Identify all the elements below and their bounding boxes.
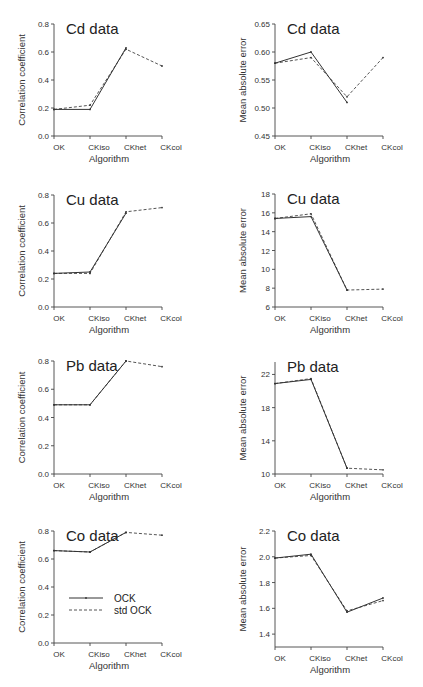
x-tick-label: CKcol — [381, 654, 403, 663]
legend-std-ock-label: std OCK — [114, 605, 152, 616]
y-tick-label: 0.8 — [38, 191, 50, 200]
figure-canvas: 0.00.20.40.60.8OKCKisoCKhetCKcolAlgorith… — [0, 0, 423, 687]
data-point — [53, 404, 55, 406]
data-point — [382, 288, 384, 290]
chart-panel-co-corr: 0.00.20.40.60.8OKCKisoCKhetCKcolAlgorith… — [16, 527, 182, 671]
data-point — [346, 467, 348, 469]
data-point — [125, 212, 127, 214]
chart-panel-pb-mae: 10141822OKCKisoCKhetCKcolAlgorithmMean a… — [237, 358, 403, 502]
data-point — [382, 600, 384, 602]
data-point — [382, 469, 384, 471]
panel-title: Cu data — [287, 190, 340, 207]
x-tick-label: CKhet — [345, 314, 368, 323]
data-point — [161, 65, 163, 67]
y-tick-label: 0.8 — [38, 20, 50, 29]
data-point — [310, 553, 312, 555]
y-tick-label: 6 — [266, 303, 271, 312]
data-point — [53, 273, 55, 275]
x-tick-label: CKhet — [124, 481, 147, 490]
y-axis-title: Mean absolute error — [237, 208, 248, 293]
x-tick-label: CKhet — [345, 481, 368, 490]
y-tick-label: 0.4 — [38, 247, 50, 256]
x-tick-label: CKcol — [160, 143, 182, 152]
data-point — [161, 207, 163, 209]
series-ock-line — [275, 217, 347, 290]
data-point — [125, 360, 127, 362]
series-std-ock-line — [275, 214, 383, 290]
x-tick-label: CKiso — [309, 654, 331, 663]
y-tick-label: 18 — [261, 404, 270, 413]
y-tick-label: 0.4 — [38, 583, 50, 592]
data-point — [346, 96, 348, 98]
data-point — [310, 379, 312, 381]
x-tick-label: CKiso — [309, 481, 331, 490]
y-tick-label: 0.55 — [254, 76, 270, 85]
x-axis-title: Algorithm — [310, 324, 350, 335]
y-tick-label: 0.0 — [38, 303, 50, 312]
data-point — [161, 366, 163, 368]
chart-panel-pb-corr: 0.00.20.40.60.8OKCKisoCKhetCKcolAlgorith… — [16, 357, 182, 502]
y-tick-label: 0.45 — [254, 132, 270, 141]
x-tick-label: CKhet — [345, 654, 368, 663]
data-point — [310, 57, 312, 59]
y-tick-label: 0.2 — [38, 611, 50, 620]
data-point — [346, 289, 348, 291]
x-tick-label: CKiso — [88, 481, 110, 490]
y-tick-label: 0.2 — [38, 442, 50, 451]
legend-ock-label: OCK — [114, 593, 136, 604]
x-tick-label: CKhet — [345, 143, 368, 152]
y-tick-label: 2.2 — [259, 527, 271, 536]
x-tick-label: CKiso — [309, 143, 331, 152]
y-axis-title: Mean absolute error — [237, 546, 248, 631]
y-tick-label: 0.8 — [38, 527, 50, 536]
y-tick-label: 18 — [261, 190, 270, 199]
series-ock-line — [275, 379, 347, 468]
y-tick-label: 14 — [261, 437, 270, 446]
x-tick-label: CKcol — [160, 650, 182, 659]
x-tick-label: OK — [274, 481, 286, 490]
x-tick-label: OK — [53, 481, 65, 490]
data-point — [346, 102, 348, 104]
series-std-ock-line — [54, 208, 162, 274]
data-point — [161, 534, 163, 536]
y-tick-label: 0.4 — [38, 414, 50, 423]
chart-panel-cu-mae: 681012141618OKCKisoCKhetCKcolAlgorithmMe… — [237, 190, 403, 335]
data-point — [310, 51, 312, 53]
data-point — [89, 104, 91, 106]
y-tick-label: 10 — [261, 265, 270, 274]
x-axis-title: Algorithm — [310, 664, 350, 675]
y-tick-label: 1.8 — [259, 579, 271, 588]
data-point — [274, 557, 276, 559]
data-point — [274, 218, 276, 220]
y-axis-title: Mean absolute error — [237, 375, 248, 460]
x-axis-title: Algorithm — [89, 153, 129, 164]
y-tick-label: 1.4 — [259, 630, 271, 639]
y-tick-label: 22 — [261, 370, 270, 379]
chart-panel-cd-corr: 0.00.20.40.60.8OKCKisoCKhetCKcolAlgorith… — [16, 20, 182, 164]
y-tick-label: 14 — [261, 228, 270, 237]
panel-title: Co data — [287, 527, 340, 544]
y-axis-title: Correlation coefficient — [16, 371, 27, 463]
panel-title: Cd data — [66, 20, 119, 37]
x-axis-title: Algorithm — [310, 153, 350, 164]
series-ock-line — [54, 213, 126, 273]
y-tick-label: 0.60 — [254, 48, 270, 57]
data-point — [125, 47, 127, 49]
chart-panel-cd-mae: 0.450.500.550.600.65OKCKisoCKhetCKcolAlg… — [237, 20, 403, 164]
y-tick-label: 0.6 — [38, 555, 50, 564]
data-point — [274, 62, 276, 64]
data-point — [53, 109, 55, 111]
y-tick-label: 0.6 — [38, 385, 50, 394]
y-tick-label: 12 — [261, 247, 270, 256]
data-point — [310, 213, 312, 215]
x-axis-title: Algorithm — [89, 660, 129, 671]
y-tick-label: 10 — [261, 470, 270, 479]
data-point — [125, 532, 127, 534]
panel-title: Co data — [66, 527, 119, 544]
data-point — [382, 597, 384, 599]
y-tick-label: 1.6 — [259, 604, 271, 613]
x-axis-title: Algorithm — [310, 491, 350, 502]
series-ock-line — [275, 554, 383, 612]
panel-title: Cu data — [66, 191, 119, 208]
y-tick-label: 0.0 — [38, 132, 50, 141]
